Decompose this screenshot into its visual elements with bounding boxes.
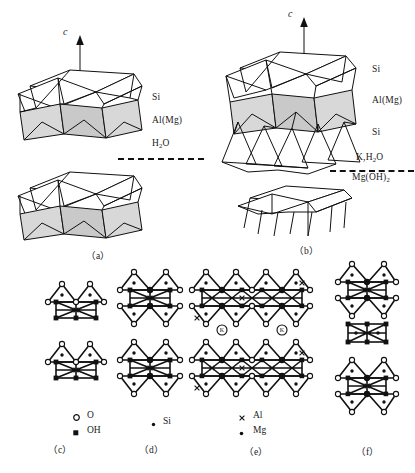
brucite-interlayer-f <box>346 322 389 345</box>
filled-square-icon <box>72 429 81 438</box>
panel-b-label-k-h2o: K,H2O <box>356 152 383 162</box>
panel-a-caption: （a） <box>86 248 110 262</box>
h2o-post: O <box>163 138 170 148</box>
legend-label-oh: OH <box>87 425 101 435</box>
kh2o-sub: 2 <box>373 156 377 163</box>
figure-root: c Si Al(Mg) <box>0 0 415 473</box>
structure-b-lower <box>228 184 358 238</box>
structure-f <box>336 260 398 435</box>
small-dot-icon <box>150 421 158 429</box>
structure-d <box>118 268 182 402</box>
k-ion-label-left: K <box>220 327 225 333</box>
open-circle-icon <box>72 413 81 422</box>
panel-d-caption: （d） <box>139 442 164 456</box>
panel-b-label-mg-oh2: Mg(OH)2 <box>352 172 390 182</box>
cross-icon <box>238 414 247 423</box>
structure-e: K K <box>190 268 312 402</box>
h2o-base: H <box>152 138 159 148</box>
legend-label-si: Si <box>163 416 171 426</box>
legend-label-al: Al <box>253 410 263 420</box>
mgoh2-pre: Mg(OH) <box>352 172 386 182</box>
interlayer-k-ions-e: K K <box>217 325 287 335</box>
structure-a-upper <box>12 64 147 152</box>
panel-a-label-h2o: H2O <box>152 138 170 148</box>
c-axis-label-b: c <box>288 8 292 19</box>
panel-e-caption: （e） <box>244 444 268 458</box>
mgoh2-sub: 2 <box>386 176 390 183</box>
legend-label-mg: Mg <box>253 425 266 435</box>
h2o-sub: 2 <box>159 142 163 149</box>
panel-b-label-si-bottom: Si <box>372 127 380 137</box>
panel-b-label-si-top: Si <box>372 64 380 74</box>
k-ion-label-right: K <box>280 327 285 333</box>
interlayer-dashed-line-a <box>118 158 204 160</box>
kh2o-post: O <box>376 152 383 162</box>
kh2o-pre: K,H <box>356 152 373 162</box>
structure-c <box>46 280 106 398</box>
panel-b-label-almg: Al(Mg) <box>372 95 402 105</box>
legend-label-o: O <box>87 410 94 420</box>
small-dot-icon-mg <box>238 430 246 438</box>
panel-f-caption: （f） <box>356 444 379 458</box>
panel-b-caption: （b） <box>294 243 319 257</box>
c-axis-label-a: c <box>63 26 67 37</box>
panel-a-label-si: Si <box>152 92 160 102</box>
panel-a-label-almg: Al(Mg) <box>152 115 182 125</box>
structure-a-lower <box>12 168 147 246</box>
panel-c-caption: （c） <box>48 442 72 456</box>
